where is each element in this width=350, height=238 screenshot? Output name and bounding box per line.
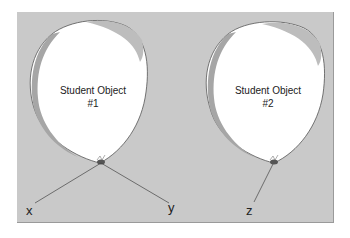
variable-z: z bbox=[246, 204, 253, 218]
variable-x: x bbox=[26, 204, 33, 218]
balloon-2 bbox=[206, 22, 324, 202]
variable-y: y bbox=[168, 201, 175, 215]
balloons-illustration bbox=[0, 0, 350, 238]
reference-line-z bbox=[254, 164, 273, 202]
object-2-title: Student Object bbox=[218, 84, 318, 97]
reference-line-x bbox=[35, 163, 101, 203]
object-1-label: Student Object #1 bbox=[43, 84, 143, 110]
object-2-label: Student Object #2 bbox=[218, 84, 318, 110]
object-1-title: Student Object bbox=[43, 84, 143, 97]
balloon-1 bbox=[30, 20, 169, 203]
object-2-number: #2 bbox=[218, 97, 318, 110]
reference-line-y bbox=[101, 163, 169, 203]
object-1-number: #1 bbox=[43, 97, 143, 110]
